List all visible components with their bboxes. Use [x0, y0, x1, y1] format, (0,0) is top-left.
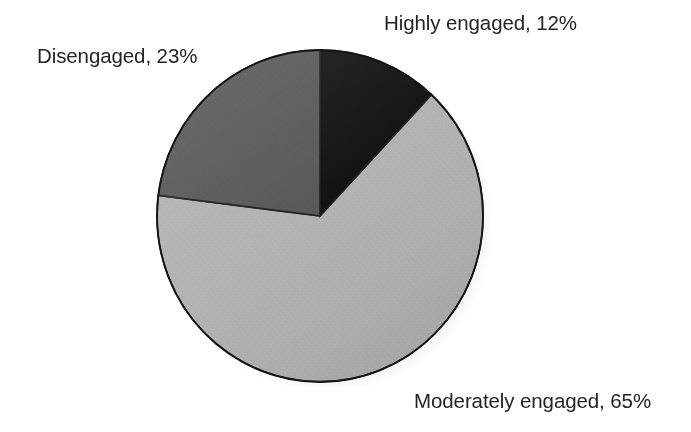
slice-label-highly-engaged: Highly engaged, 12% [384, 12, 577, 33]
pie-sheen-overlay [157, 50, 483, 382]
slice-label-moderately-engaged: Moderately engaged, 65% [414, 390, 651, 411]
pie-svg [155, 48, 489, 388]
pie-disc [155, 48, 489, 388]
pie-chart-figure: Highly engaged, 12% Disengaged, 23% Mode… [0, 0, 691, 432]
